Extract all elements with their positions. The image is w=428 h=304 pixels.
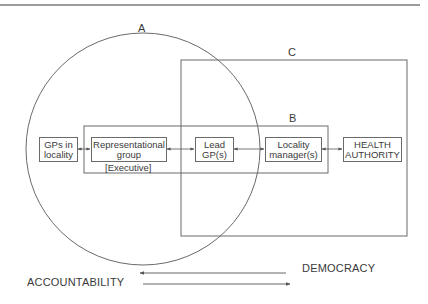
node-locality-managers: Locality manager(s)	[265, 137, 322, 162]
node-lead-gps: Lead GP(s)	[195, 137, 234, 162]
node-rep-line-1: Representational	[93, 140, 165, 150]
node-gps-line-2: locality	[44, 150, 73, 160]
node-gps-in-locality: GPs in locality	[39, 137, 78, 162]
node-lm-line-2: manager(s)	[269, 150, 318, 160]
node-representational-group: Representational group	[91, 137, 167, 162]
node-lm-line-1: Locality	[277, 140, 309, 150]
node-ha-line-2: AUTHORITY	[345, 150, 400, 160]
accountability-label: ACCOUNTABILITY	[27, 276, 124, 288]
node-gps-line-1: GPs in	[44, 140, 73, 150]
node-rep-sublabel: [Executive]	[105, 163, 151, 173]
democracy-label: DEMOCRACY	[302, 262, 375, 274]
node-health-authority: HEALTH AUTHORITY	[343, 137, 402, 162]
region-a-label: A	[138, 22, 145, 34]
node-lead-line-2: GP(s)	[202, 150, 227, 160]
node-rep-line-2: group	[117, 150, 141, 160]
region-b-label: B	[289, 112, 296, 124]
node-lead-line-1: Lead	[204, 140, 225, 150]
node-ha-line-1: HEALTH	[354, 140, 391, 150]
region-c-label: C	[288, 46, 296, 58]
